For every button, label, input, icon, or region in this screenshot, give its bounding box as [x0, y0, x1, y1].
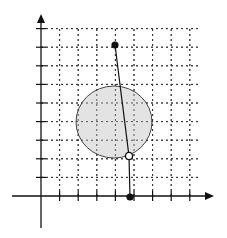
axis-point [126, 193, 133, 200]
diagram-canvas [0, 0, 227, 238]
top-point [111, 41, 118, 48]
x-axis-arrow-icon [205, 192, 214, 200]
circle-point [125, 152, 132, 159]
segment-circle-to-axis [129, 156, 130, 197]
y-axis-arrow-icon [37, 14, 45, 23]
coordinate-plane [0, 0, 227, 238]
